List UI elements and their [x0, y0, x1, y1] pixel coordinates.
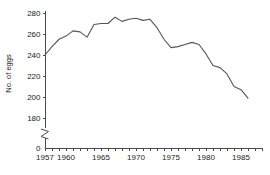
x-tick-label: 1970 — [127, 153, 145, 162]
x-tick-label: 1985 — [232, 153, 250, 162]
x-tick-label: 1980 — [197, 153, 215, 162]
y-tick-label: 280 — [27, 9, 41, 18]
line-chart: 2802602402202001800 19571960196519701975… — [0, 0, 270, 175]
y-axis-title: No. of eggs — [4, 54, 13, 93]
series-line-no-of-eggs — [45, 17, 248, 98]
x-tick-label: 1965 — [92, 153, 110, 162]
y-tick-label: 240 — [27, 51, 41, 60]
y-tick-label: 180 — [27, 114, 41, 123]
x-axis-tick-labels: 1957196019651970197519801985 — [36, 153, 250, 162]
y-axis-tick-labels: 2802602402202001800 — [27, 9, 41, 153]
y-tick-label: 220 — [27, 72, 41, 81]
data-series — [45, 17, 248, 98]
y-axis-title-text: No. of eggs — [4, 54, 13, 93]
x-tick-label: 1975 — [162, 153, 180, 162]
axis-break-squiggle — [41, 129, 49, 139]
y-tick-label: 200 — [27, 93, 41, 102]
x-tick-label: 1957 — [36, 153, 54, 162]
y-tick-label: 260 — [27, 30, 41, 39]
x-tick-label: 1960 — [57, 153, 75, 162]
y-axis-break-icon — [41, 129, 49, 139]
chart-container: 2802602402202001800 19571960196519701975… — [0, 0, 270, 175]
